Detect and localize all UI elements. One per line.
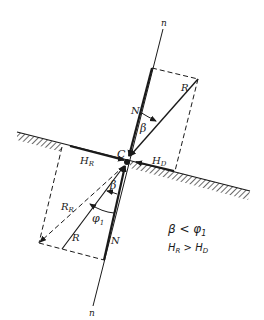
label-RR: RR [60,201,75,214]
HR-vector [70,146,124,160]
lower-dashed-left [39,147,62,243]
force-diagram: n n C N R β HR HD β RR φ1 R N β < φ1 HR … [0,0,264,320]
label-phi: φ1 [92,212,104,227]
condition-beta-lt-phi: β < φ1 [167,222,206,238]
upper-dashed-top [152,68,198,79]
label-n-top: n [161,18,167,28]
label-R-lower: R [71,232,80,243]
label-beta-lower: β [109,179,116,192]
upper-beta-arc [140,112,156,121]
label-HR: HR [79,155,95,168]
label-C: C [117,148,126,161]
label-n-bottom: n [89,308,95,318]
lower-dashed-bottom [39,243,104,260]
label-beta-upper: β [139,122,146,135]
label-N-upper: N [130,105,141,116]
condition-HR-gt-HD: HR > HD [168,242,209,255]
label-N-lower: N [110,235,121,246]
label-R-upper: R [180,82,189,93]
